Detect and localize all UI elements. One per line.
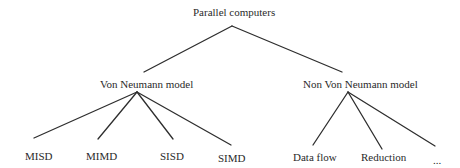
node-ellipsis: ... bbox=[433, 155, 441, 166]
edge-root-non-von-neumann bbox=[232, 26, 342, 72]
node-data-flow: Data flow bbox=[293, 152, 337, 163]
node-von-neumann-model: Von Neumann model bbox=[100, 79, 193, 90]
node-non-von-neumann-model: Non Von Neumann model bbox=[303, 79, 418, 90]
edge-von-neumann-sisd bbox=[137, 92, 173, 139]
node-parallel-computers: Parallel computers bbox=[193, 7, 275, 18]
edge-root-von-neumann bbox=[144, 26, 232, 72]
node-simd: SIMD bbox=[218, 153, 246, 164]
node-misd: MISD bbox=[25, 151, 53, 162]
edge-von-neumann-mimd bbox=[98, 92, 137, 139]
edge-von-neumann-simd bbox=[137, 92, 231, 145]
parallel-computers-tree-diagram: Parallel computers Von Neumann model Non… bbox=[0, 0, 460, 168]
edge-non-von-neumann-ellipsis bbox=[348, 92, 435, 146]
edge-non-von-neumann-data-flow bbox=[313, 92, 348, 145]
node-sisd: SISD bbox=[160, 151, 184, 162]
node-mimd: MIMD bbox=[86, 151, 117, 162]
edge-non-von-neumann-reduction bbox=[348, 92, 382, 149]
edge-von-neumann-misd bbox=[34, 92, 137, 138]
node-reduction: Reduction bbox=[361, 152, 406, 163]
